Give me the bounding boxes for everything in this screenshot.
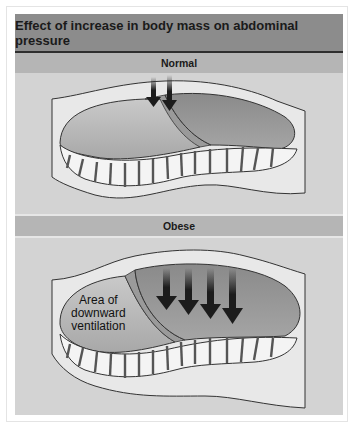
section-header-normal: Normal <box>15 53 343 73</box>
section-label-normal: Normal <box>161 57 197 69</box>
annotation-line: ventilation <box>71 320 126 333</box>
figure-title-text: Effect of increase in body mass on abdom… <box>15 18 343 48</box>
section-label-obese: Obese <box>163 220 195 232</box>
annotation-downward-ventilation: Area of downward ventilation <box>71 294 126 333</box>
diagram-obese: Area of downward ventilation <box>15 238 343 415</box>
figure-title: Effect of increase in body mass on abdom… <box>15 14 343 51</box>
diagram-normal <box>15 73 343 214</box>
figure-panel: Effect of increase in body mass on abdom… <box>15 14 343 415</box>
section-header-obese: Obese <box>15 216 343 236</box>
